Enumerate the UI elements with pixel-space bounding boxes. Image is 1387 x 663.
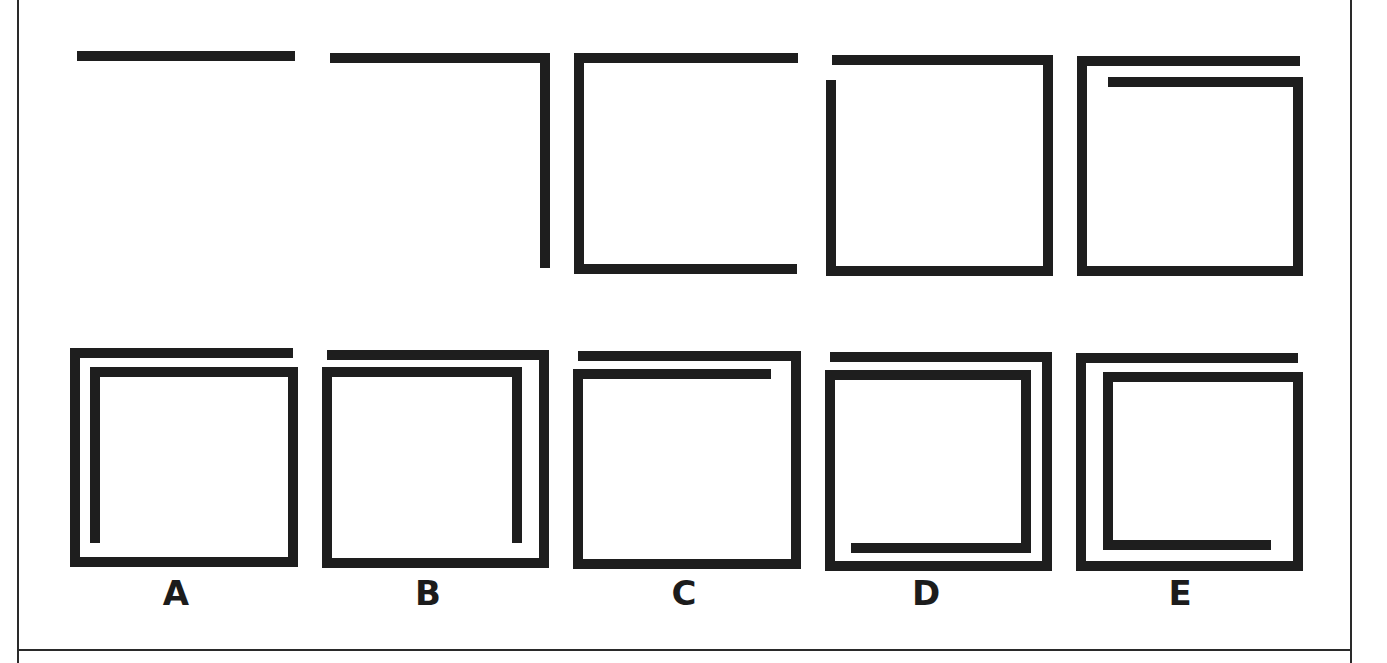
line-segment	[1076, 561, 1303, 571]
line-segment	[573, 559, 801, 569]
option-label-d[interactable]: D	[896, 576, 956, 610]
line-segment	[327, 350, 549, 360]
option-figure-a[interactable]	[70, 348, 298, 567]
option-label-a[interactable]: A	[146, 576, 206, 610]
puzzle-panel: A B C D E	[0, 0, 1387, 663]
line-segment	[540, 53, 550, 268]
line-segment	[330, 53, 550, 63]
line-segment	[1043, 55, 1053, 275]
line-segment	[512, 367, 522, 543]
line-segment	[1077, 56, 1087, 275]
line-segment	[826, 80, 836, 275]
option-label-e[interactable]: E	[1150, 576, 1210, 610]
line-segment	[1103, 540, 1271, 550]
option-figure-c[interactable]	[573, 351, 801, 569]
option-figure-e[interactable]	[1076, 353, 1303, 571]
line-segment	[1293, 372, 1303, 570]
option-figure-d[interactable]	[825, 352, 1052, 571]
line-segment	[1076, 353, 1086, 570]
line-segment	[578, 351, 801, 361]
line-segment	[825, 561, 1052, 571]
sequence-figure-2	[330, 53, 550, 268]
line-segment	[1103, 372, 1113, 549]
line-segment	[1293, 77, 1303, 275]
line-segment	[1103, 372, 1303, 382]
option-label-b[interactable]: B	[398, 576, 458, 610]
line-segment	[1077, 266, 1303, 276]
line-segment	[322, 367, 332, 567]
line-segment	[1021, 370, 1031, 552]
sequence-figure-1	[77, 51, 295, 61]
option-figure-b[interactable]	[322, 350, 549, 568]
line-segment	[573, 369, 771, 379]
line-segment	[1108, 77, 1303, 87]
line-segment	[322, 367, 522, 377]
line-segment	[70, 348, 293, 358]
line-segment	[1042, 352, 1052, 570]
line-segment	[832, 55, 1053, 65]
sequence-row	[77, 51, 1303, 276]
line-segment	[826, 266, 1053, 276]
line-segment	[539, 350, 549, 567]
line-segment	[574, 53, 584, 273]
line-segment	[574, 264, 797, 274]
option-label-c[interactable]: C	[654, 576, 714, 610]
line-segment	[1077, 56, 1300, 66]
sequence-figure-5	[1077, 56, 1303, 276]
line-segment	[288, 367, 298, 567]
line-segment	[830, 352, 1052, 362]
line-segment	[573, 369, 583, 569]
line-segment	[90, 367, 298, 377]
line-segment	[77, 51, 295, 61]
line-segment	[574, 53, 798, 63]
line-segment	[322, 558, 549, 568]
line-segment	[825, 370, 835, 570]
line-segment	[70, 348, 80, 567]
figures-canvas	[0, 0, 1387, 663]
line-segment	[791, 351, 801, 569]
line-segment	[825, 370, 1031, 380]
line-segment	[70, 557, 298, 567]
line-segment	[90, 367, 100, 543]
answer-options-row	[70, 348, 1303, 571]
line-segment	[1076, 353, 1298, 363]
sequence-figure-4	[826, 55, 1053, 276]
line-segment	[851, 543, 1031, 553]
sequence-figure-3	[574, 53, 798, 274]
